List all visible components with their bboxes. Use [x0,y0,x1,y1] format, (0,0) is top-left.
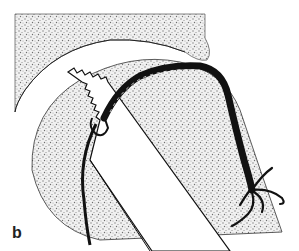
panel-label: b [12,224,22,242]
medical-illustration [0,0,299,251]
